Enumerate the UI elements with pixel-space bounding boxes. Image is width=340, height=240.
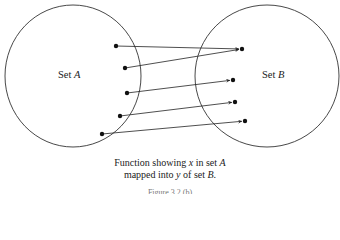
codomain-point — [231, 78, 235, 82]
domain-point — [118, 114, 122, 118]
domain-point — [114, 44, 118, 48]
caption-line-2: mapped into y of set B. — [0, 169, 340, 181]
mapping-arrows — [102, 46, 242, 134]
mapping-arrow — [127, 80, 230, 93]
domain-point — [123, 66, 127, 70]
domain-point — [100, 132, 104, 136]
codomain-point — [240, 47, 244, 51]
mapping-arrow — [116, 46, 239, 49]
domain-point — [125, 91, 129, 95]
set-a-label: Set A — [58, 69, 80, 80]
mapping-arrow — [125, 49, 239, 68]
codomain-point — [233, 100, 237, 104]
codomain-point — [243, 119, 247, 123]
mapping-arrow — [120, 102, 232, 116]
points — [100, 44, 247, 136]
mapping-arrow — [102, 121, 242, 134]
figure-label: Figure 3.2.(b) — [0, 187, 340, 194]
set-b-label: Set B — [262, 69, 284, 80]
caption-line-1: Function showing x in set A — [0, 157, 340, 169]
